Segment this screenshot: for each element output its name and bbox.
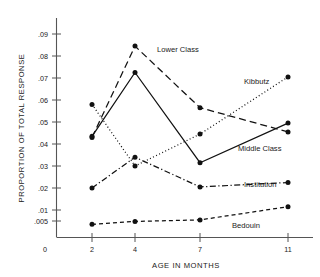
series-markers-lower-class [90,44,291,140]
data-point [198,217,203,222]
x-axis-title: AGE IN MONTHS [152,261,220,270]
x-tick-label: 4 [133,245,137,254]
y-tick-label: .09 [38,30,48,39]
y-tick-label: .05 [38,118,48,127]
x-tick-label: 11 [284,245,291,254]
data-point [286,204,291,209]
series-markers-bedouin [90,204,291,227]
series-annotation-bedouin: Bedouin [232,221,260,230]
series-annotation-lower-class: Lower Class [157,45,199,54]
x-tick-label: 2 [90,245,94,254]
series-annotation-kibbutz: Kibbutz [244,77,270,86]
data-point [133,155,138,160]
series-annotation-institution: Institution [244,180,277,189]
y-axis-title: PROPORTION OF TOTAL RESPONSE [17,54,26,203]
y-tick-label: .02 [38,184,48,193]
chart-container: .09 .08 .07 .06 .05 .04 .03 .02 .01 .005… [0,0,320,277]
series-annotation-middle-class: Middle Class [238,144,282,153]
x-tick-label: 0 [43,245,47,254]
data-point [133,219,138,224]
data-point [286,129,291,134]
data-point [133,44,138,49]
series-kibbutz [90,74,291,168]
x-tick-label: 7 [198,245,202,254]
y-tick-label: .06 [38,96,48,105]
line-chart: .09 .08 .07 .06 .05 .04 .03 .02 .01 .005… [0,0,320,277]
data-point [286,74,291,79]
data-point [133,164,138,169]
y-tick-label: .005 [34,217,48,226]
data-point [133,70,138,75]
y-tick-label: .03 [38,162,48,171]
x-axis-ticks: 0 2 4 7 11 [43,233,292,254]
data-point [90,134,95,139]
data-point [198,105,203,110]
data-point [198,132,203,137]
data-point [198,160,203,165]
data-point [90,222,95,227]
y-tick-label: .04 [38,140,48,149]
data-point [286,121,291,126]
series-markers-kibbutz [90,74,291,168]
y-tick-label: .07 [38,74,48,83]
y-tick-label: .01 [38,206,48,215]
series-bedouin [90,204,291,227]
data-point [90,102,95,107]
data-point [90,186,95,191]
y-tick-label: .08 [38,52,48,61]
series-lower-class [90,44,291,140]
data-point [198,184,203,189]
data-point [286,180,291,185]
